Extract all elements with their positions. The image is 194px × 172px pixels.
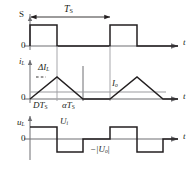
inductor-current-waveform	[30, 77, 178, 99]
period-label: TS	[64, 4, 73, 15]
switch-zero-label: 0	[21, 41, 26, 50]
panel-inductor-current	[24, 46, 178, 103]
on-time-label: DTS	[33, 101, 48, 111]
current-y-axis-arrow	[28, 60, 32, 65]
voltage-y-axis-arrow	[28, 116, 32, 121]
negative-voltage-label: −|Uo|	[90, 145, 110, 155]
switch-time-label: t	[183, 38, 186, 47]
switch-y-label: S	[19, 10, 24, 19]
positive-voltage-label: Ui	[60, 117, 68, 127]
switch-waveform	[30, 25, 178, 46]
panel-switch	[24, 14, 178, 50]
average-current-label: Io	[112, 79, 118, 89]
current-time-label: t	[183, 92, 186, 101]
fall-time-label: αTS	[62, 101, 75, 111]
current-zero-label: 0	[21, 93, 26, 102]
figure-canvas: S 0 t TS iL 0 t ΔIL Io DTS αTS uL 0 t Ui…	[0, 0, 194, 172]
current-y-label: iL	[19, 57, 25, 67]
ripple-current-label: ΔIL	[38, 63, 49, 73]
voltage-zero-label: 0	[21, 134, 26, 143]
voltage-time-label: t	[183, 132, 186, 141]
voltage-y-label: uL	[17, 118, 25, 128]
